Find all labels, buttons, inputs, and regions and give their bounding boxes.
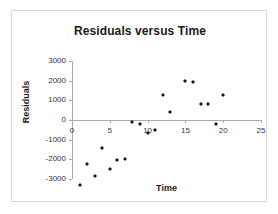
- data-point: [108, 157, 112, 161]
- x-tick-label: 5: [98, 127, 122, 135]
- y-tick-label: 2000: [32, 77, 66, 85]
- data-point: [130, 110, 134, 114]
- x-tick-mark: [148, 120, 149, 123]
- data-point: [199, 92, 203, 96]
- y-tick-mark: [69, 159, 72, 160]
- data-point: [221, 83, 225, 87]
- plot-area: 3000200010000-1000-2000-30000510152025: [12, 11, 268, 203]
- scan-artifact-band: [0, 0, 278, 10]
- y-tick-label: 3000: [32, 57, 66, 65]
- y-tick-mark: [69, 120, 72, 121]
- y-axis-line: [72, 61, 73, 179]
- data-point: [93, 164, 97, 168]
- y-tick-mark: [69, 81, 72, 82]
- data-point: [161, 83, 165, 87]
- x-axis-line: [72, 120, 261, 121]
- y-tick-mark: [69, 140, 72, 141]
- x-tick-mark: [261, 120, 262, 123]
- y-tick-label: -3000: [32, 175, 66, 183]
- data-point: [206, 92, 210, 96]
- y-tick-label: -1000: [32, 136, 66, 144]
- y-tick-label: -2000: [32, 155, 66, 163]
- y-axis-title: Residuals: [21, 72, 31, 132]
- x-tick-mark: [223, 120, 224, 123]
- data-point: [78, 173, 82, 177]
- x-tick-label: 25: [249, 127, 273, 135]
- y-tick-mark: [69, 100, 72, 101]
- data-point: [100, 136, 104, 140]
- y-tick-label: 0: [32, 116, 66, 124]
- y-tick-mark: [69, 61, 72, 62]
- x-axis-title: Time: [72, 183, 261, 193]
- data-point: [183, 69, 187, 73]
- data-point: [123, 147, 127, 151]
- data-point: [191, 70, 195, 74]
- x-tick-mark: [185, 120, 186, 123]
- x-tick-label: 15: [173, 127, 197, 135]
- data-point: [85, 152, 89, 156]
- data-point: [115, 148, 119, 152]
- chart-container: Residuals versus Time 3000200010000-1000…: [11, 10, 267, 202]
- data-point: [138, 112, 142, 116]
- x-tick-label: 0: [60, 127, 84, 135]
- y-tick-label: 1000: [32, 96, 66, 104]
- y-tick-mark: [69, 179, 72, 180]
- data-point: [214, 112, 218, 116]
- x-tick-mark: [110, 120, 111, 123]
- x-tick-label: 10: [136, 127, 160, 135]
- data-point: [168, 100, 172, 104]
- x-tick-label: 20: [211, 127, 235, 135]
